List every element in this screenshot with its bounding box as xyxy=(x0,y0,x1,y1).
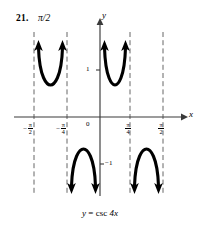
fraction-pi-over-4: π4 xyxy=(125,122,130,136)
origin-label: 0 xyxy=(86,120,90,128)
y-axis-label: y xyxy=(102,10,106,20)
fraction-denominator: 2 xyxy=(28,128,33,135)
upper-right-branch xyxy=(105,48,126,85)
x-axis xyxy=(14,114,188,121)
y-axis xyxy=(97,18,104,196)
csc-graph-svg xyxy=(0,0,200,226)
upper-left-branch xyxy=(39,48,63,85)
x-tick-label-pi-over-2: π2 xyxy=(153,122,169,136)
x-axis-arrowhead xyxy=(181,114,188,121)
equation-function-name: csc xyxy=(96,208,108,218)
fraction-pi-over-4: π4 xyxy=(61,122,66,136)
equation-equals: = xyxy=(88,208,93,218)
y-tick-label-negative-one: −1 xyxy=(105,159,112,167)
lower-left-branch xyxy=(72,149,96,186)
x-tick-label-neg-pi-over-2: −π2 xyxy=(20,122,36,136)
fraction-denominator: 2 xyxy=(158,128,163,135)
lower-right-branch xyxy=(135,149,159,186)
equation-lhs: y xyxy=(82,208,86,218)
x-tick-label-pi-over-4: π4 xyxy=(120,122,136,136)
x-tick-label-neg-pi-over-4: −π4 xyxy=(53,122,69,136)
equation-argument: 4x xyxy=(109,208,118,218)
fraction-pi-over-2: π2 xyxy=(28,122,33,136)
y-tick-label-one: 1 xyxy=(86,65,90,73)
x-axis-label: x xyxy=(189,109,193,119)
figure-container: 21. π/2 xyxy=(0,0,200,226)
fraction-pi-over-2: π2 xyxy=(158,122,163,136)
equation-caption: y = csc 4x xyxy=(0,208,200,218)
fraction-denominator: 4 xyxy=(125,128,130,135)
fraction-denominator: 4 xyxy=(61,128,66,135)
asymptote-group xyxy=(34,32,163,196)
